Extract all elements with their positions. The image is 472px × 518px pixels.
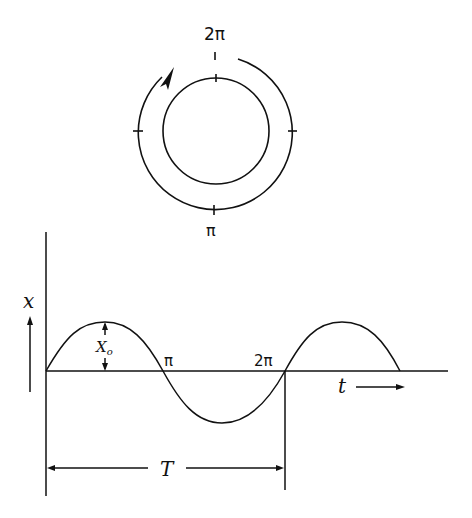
crossing-label-pi: π [164, 352, 173, 370]
period-left-arrow-icon [47, 465, 55, 471]
inner-circle [163, 78, 269, 184]
period-right-arrow-icon [276, 465, 284, 471]
amplitude-label: Xo [95, 338, 113, 357]
x-axis-label: t [338, 374, 347, 398]
y-direction-arrow-icon [27, 316, 33, 325]
phase-circle-diagram [133, 52, 297, 215]
rotation-arrow-head-icon [160, 67, 174, 90]
amplitude-down-arrow-icon [102, 363, 108, 371]
arrowheads [27, 316, 405, 471]
amplitude-label-subscript: o [107, 346, 113, 357]
circle-bottom-label: π [206, 221, 216, 240]
crossing-label-2pi: 2π [254, 352, 273, 370]
t-direction-arrow-icon [396, 384, 405, 390]
amplitude-up-arrow-icon [102, 322, 108, 330]
wave-graph [30, 232, 448, 496]
period-label: T [160, 457, 175, 481]
phase-diagram-figure: 2π π x Xo π 2π t T [0, 0, 472, 518]
y-axis-label: x [23, 289, 34, 313]
circle-top-label: 2π [204, 24, 225, 44]
